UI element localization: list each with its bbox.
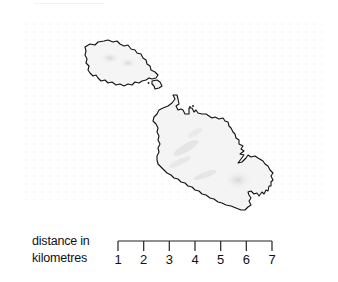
scale-bar [0,0,338,282]
scale-tick-6: 6 [243,252,250,267]
scale-tick-1: 1 [114,252,121,267]
scale-tick-3: 3 [166,252,173,267]
scale-tick-4: 4 [191,252,198,267]
scale-tick-2: 2 [140,252,147,267]
scale-tick-7: 7 [268,252,275,267]
scale-tick-5: 5 [217,252,224,267]
